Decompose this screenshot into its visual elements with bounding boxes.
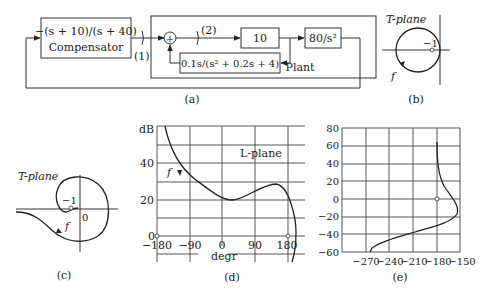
nichols-curve <box>370 142 458 252</box>
origin-label: 0 <box>82 212 88 223</box>
y-tick-40: 40 <box>326 158 339 169</box>
panel-e-caption: (e) <box>392 271 407 284</box>
x-tick-180: 180 <box>277 239 298 252</box>
double-integrator-tf: 80/s² <box>309 32 337 45</box>
critical-point-label: −1 <box>423 38 438 49</box>
x-axis-label: degr <box>211 250 238 263</box>
y-tick-20: 20 <box>326 176 339 187</box>
plane-label: T-plane <box>386 13 427 26</box>
y-tick-60: 60 <box>326 140 339 151</box>
x-tick-m90: −90 <box>178 239 201 252</box>
panel-c-caption: (c) <box>57 269 72 282</box>
y-unit: dB <box>139 123 154 136</box>
panel-d-caption: (d) <box>224 271 240 284</box>
summer-sign: + <box>166 33 174 44</box>
critical-point-marker <box>69 206 73 210</box>
figure-canvas: −(s + 10)/(s + 40) Compensator Plant (1)… <box>0 0 485 297</box>
feedback-tf: 0.1s/(s² + 0.2s + 4) <box>181 58 279 69</box>
panel-c-t-plane: −1 0 T-plane f (c) <box>16 170 118 282</box>
y-tick-40: 40 <box>140 157 154 170</box>
y-tick-20: 20 <box>140 194 154 207</box>
break-point-2: (2) <box>201 24 217 37</box>
panel-d-l-plane-chart: dB 40 20 0 −180 −90 0 90 180 degr L-plan… <box>139 123 305 284</box>
plane-label: L-plane <box>240 147 282 160</box>
x-tick-90: 90 <box>248 239 262 252</box>
y-tick-m20: −20 <box>318 211 339 222</box>
x-tick-m180: −180 <box>142 239 172 252</box>
panel-b-t-plane: −1 T-plane f (b) <box>382 13 450 106</box>
curve-label: f <box>166 166 173 179</box>
compensator-label: Compensator <box>49 41 124 54</box>
x-tick-m150: −150 <box>448 256 475 267</box>
gain-value: 10 <box>253 32 267 45</box>
critical-point-label: −1 <box>62 195 77 206</box>
curve-label: f <box>64 220 71 233</box>
compensator-tf: −(s + 10)/(s + 40) <box>35 25 137 38</box>
y-tick-m60: −60 <box>318 247 339 258</box>
panel-a-block-diagram: −(s + 10)/(s + 40) Compensator Plant (1)… <box>26 16 376 106</box>
panel-a-caption: (a) <box>184 93 199 106</box>
panel-e-nichols-chart: 80 60 40 20 0 −20 −40 −60 −270 −240 −210… <box>318 123 476 284</box>
y-tick-80: 80 <box>326 123 339 134</box>
y-tick-0: 0 <box>333 194 339 205</box>
y-tick-m40: −40 <box>318 229 339 240</box>
plane-label: T-plane <box>18 170 59 183</box>
break-point-1: (1) <box>134 50 150 63</box>
panel-b-caption: (b) <box>408 93 424 106</box>
curve-label: f <box>390 70 397 83</box>
